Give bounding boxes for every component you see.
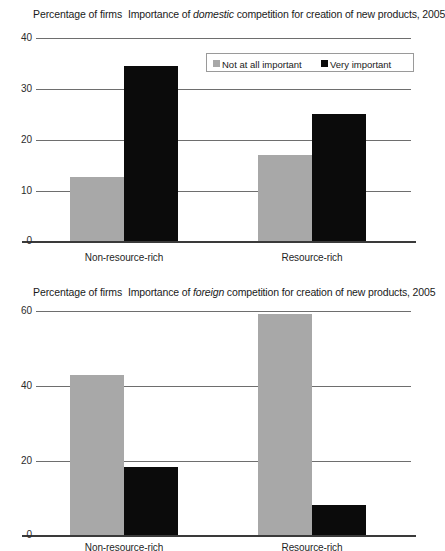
legend-item-very-important: Very important — [321, 57, 391, 70]
chart-legend: Not at all important Very important — [206, 53, 414, 72]
chart-title-prefix: Importance of — [128, 286, 193, 298]
bar-resource-rich-very-important — [312, 505, 366, 535]
chart-title-suffix: competition for creation of new products… — [224, 286, 435, 298]
chart-domestic-competition: Percentage of firms Importance of domest… — [0, 0, 427, 278]
axis-baseline — [22, 535, 416, 537]
bar-resource-rich-very-important — [312, 114, 366, 241]
gridline-40 — [36, 38, 411, 39]
y-tick-label-20: 20 — [2, 455, 32, 466]
y-tick-label-30: 30 — [2, 83, 32, 94]
bar-resource-rich-not-at-all-important — [258, 155, 312, 241]
chart-title-suffix: competition for creation of new products… — [234, 8, 445, 20]
bar-non-resource-rich-not-at-all-important — [70, 177, 124, 241]
y-tick-label-10: 10 — [2, 185, 32, 196]
legend-swatch-icon-gray — [213, 60, 220, 67]
y-axis-caption: Percentage of firms — [33, 286, 122, 298]
bar-non-resource-rich-very-important — [124, 66, 178, 241]
legend-label: Not at all important — [222, 59, 302, 70]
y-tick-label-40: 40 — [2, 380, 32, 391]
y-axis-caption: Percentage of firms — [33, 8, 122, 20]
chart-title: Importance of domestic competition for c… — [128, 8, 445, 20]
chart-title: Importance of foreign competition for cr… — [128, 286, 435, 298]
gridline-30 — [36, 89, 411, 90]
category-label-non-resource-rich: Non-resource-rich — [54, 252, 194, 263]
legend-label: Very important — [330, 59, 391, 70]
legend-swatch-icon-black — [321, 60, 328, 67]
chart-foreign-competition: Percentage of firms Importance of foreig… — [0, 278, 427, 551]
legend-item-not-at-all-important: Not at all important — [213, 57, 302, 70]
bar-resource-rich-not-at-all-important — [258, 314, 312, 535]
category-label-resource-rich: Resource-rich — [242, 542, 382, 551]
chart-title-emphasis: foreign — [193, 286, 224, 298]
y-tick-label-40: 40 — [2, 32, 32, 43]
chart-title-emphasis: domestic — [193, 8, 234, 20]
bar-non-resource-rich-not-at-all-important — [70, 375, 124, 535]
bar-non-resource-rich-very-important — [124, 467, 178, 535]
chart-foreign-header: Percentage of firms Importance of foreig… — [0, 286, 427, 302]
chart-domestic-header: Percentage of firms Importance of domest… — [0, 8, 427, 24]
y-tick-label-0: 0 — [2, 529, 32, 540]
chart-title-prefix: Importance of — [128, 8, 193, 20]
category-label-non-resource-rich: Non-resource-rich — [54, 542, 194, 551]
category-label-resource-rich: Resource-rich — [242, 252, 382, 263]
y-tick-label-60: 60 — [2, 305, 32, 316]
y-tick-label-20: 20 — [2, 134, 32, 145]
y-tick-label-0: 0 — [2, 235, 32, 246]
axis-baseline — [22, 241, 416, 243]
gridline-60 — [36, 311, 411, 312]
